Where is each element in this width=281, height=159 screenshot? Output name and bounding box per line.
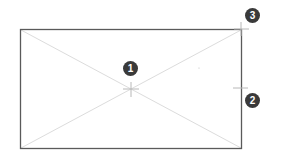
callout-badge-3: 3: [245, 8, 260, 23]
rectangle-diagram: [0, 0, 281, 159]
diagram-canvas: 1 2 3: [0, 0, 281, 159]
speck-mark: [198, 67, 199, 68]
crosshair-center-icon: [123, 82, 139, 97]
callout-badge-2: 2: [245, 93, 260, 108]
callout-badge-1: 1: [123, 61, 138, 76]
crosshair-top-right-icon: [234, 22, 249, 36]
